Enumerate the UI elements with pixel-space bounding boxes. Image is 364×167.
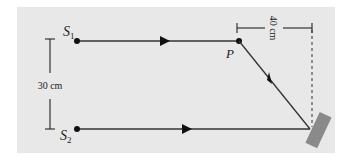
interference-diagram: 30 cm S1 P S2 40 cm [0, 0, 364, 167]
source-s1-dot [74, 38, 80, 44]
point-p-label: P [225, 46, 234, 61]
source-s2-dot [74, 126, 80, 132]
vertical-dimension-label: 30 cm [38, 80, 63, 91]
horizontal-dimension-label: 40 cm [268, 16, 279, 41]
